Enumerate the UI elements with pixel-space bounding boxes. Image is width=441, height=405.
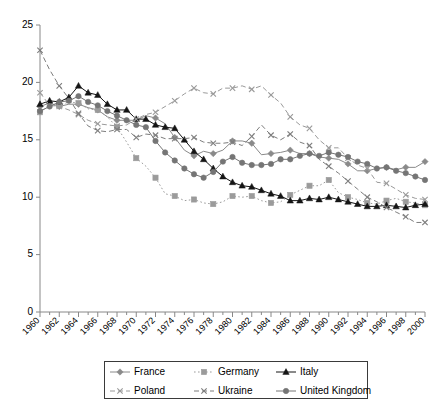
data-point [239, 160, 244, 165]
x-tick-label: 1988 [290, 315, 311, 336]
data-point [76, 100, 81, 105]
data-point [326, 194, 332, 200]
data-point [230, 154, 235, 159]
y-tick-label: 0 [27, 306, 33, 317]
data-point [422, 177, 427, 182]
data-point [307, 143, 312, 148]
data-point [393, 168, 398, 173]
data-point [95, 121, 100, 126]
data-point [355, 159, 360, 164]
data-point [307, 126, 312, 131]
data-point [403, 199, 408, 204]
legend-item-united-kingdom[interactable]: United Kingdom [275, 385, 371, 396]
data-point [268, 133, 273, 138]
data-point [249, 193, 254, 198]
data-point [75, 82, 81, 88]
data-point [191, 172, 196, 177]
data-point [85, 99, 90, 104]
data-point [403, 164, 409, 170]
y-tick-label: 15 [22, 133, 34, 144]
data-point [422, 220, 427, 225]
x-tick-label: 1992 [328, 315, 349, 336]
data-point [268, 161, 273, 166]
data-point [403, 192, 408, 197]
data-point [345, 178, 350, 183]
data-point [95, 128, 100, 133]
data-point [422, 158, 428, 164]
x-tick-label: 1968 [97, 315, 118, 336]
data-point [306, 195, 312, 201]
x-tick-label: 1996 [367, 315, 388, 336]
data-point [249, 162, 254, 167]
legend-label: Poland [134, 385, 165, 396]
data-point [134, 135, 139, 140]
x-tick-label: 1972 [136, 315, 157, 336]
legend-item-ukraine[interactable]: Ukraine [193, 385, 275, 396]
data-point [326, 177, 331, 182]
data-point [278, 157, 283, 162]
data-point [374, 166, 379, 171]
data-point [153, 110, 158, 115]
x-axis: 1960196219641966196819701972197419761978… [20, 312, 426, 337]
legend-marker-square-icon [193, 367, 215, 377]
data-point [76, 93, 81, 98]
x-tick-label: 1980 [213, 315, 234, 336]
x-tick-label: 1974 [155, 315, 176, 336]
data-point [365, 195, 370, 200]
x-tick-label: 1964 [59, 315, 80, 336]
data-point [316, 153, 321, 158]
data-point [403, 214, 408, 219]
y-tick-label: 5 [27, 248, 33, 259]
data-point [37, 108, 42, 113]
data-point [152, 121, 158, 127]
x-tick-label: 1990 [309, 315, 330, 336]
data-point [172, 193, 177, 198]
data-point [307, 183, 312, 188]
x-tick-label: 1994 [347, 315, 368, 336]
legend-item-germany[interactable]: Germany [193, 366, 275, 377]
data-point [201, 369, 206, 374]
legend-label: Ukraine [218, 385, 252, 396]
legend-label: United Kingdom [300, 385, 371, 396]
data-point [152, 115, 158, 121]
data-point [134, 122, 139, 127]
y-axis: 0510152025 [22, 19, 40, 317]
data-point [153, 138, 158, 143]
data-point [345, 154, 350, 159]
data-point [345, 161, 351, 167]
line-chart: 0510152025 19601962196419661968197019721… [0, 0, 441, 405]
legend-label: Italy [300, 366, 318, 377]
data-point [220, 159, 225, 164]
series-italy [37, 82, 428, 209]
data-point [47, 104, 52, 109]
legend-item-france[interactable]: France [109, 366, 193, 377]
data-point [326, 155, 332, 161]
data-point [384, 165, 389, 170]
data-point [259, 162, 264, 167]
legend-marker-diamond-icon [109, 367, 131, 377]
data-point [191, 85, 196, 90]
legend-label: Germany [218, 366, 259, 377]
data-point [182, 166, 187, 171]
legend-item-poland[interactable]: Poland [109, 385, 193, 396]
data-point [288, 131, 293, 136]
data-point [288, 157, 293, 162]
data-point [268, 92, 273, 97]
data-point [143, 124, 148, 129]
x-tick-label: 1966 [78, 315, 99, 336]
data-point [268, 200, 273, 205]
x-tick-label: 1962 [39, 315, 60, 336]
x-tick-label: 1982 [232, 315, 253, 336]
data-point [134, 156, 139, 161]
legend-label: France [134, 366, 165, 377]
data-point [117, 368, 123, 374]
legend-item-italy[interactable]: Italy [275, 366, 371, 377]
data-point [153, 175, 158, 180]
series-layer [37, 48, 428, 226]
data-point [105, 108, 110, 113]
data-point [201, 175, 206, 180]
data-point [326, 164, 331, 169]
data-point [268, 150, 274, 156]
x-tick-label: 1960 [20, 315, 41, 336]
x-tick-label: 2000 [405, 315, 426, 336]
